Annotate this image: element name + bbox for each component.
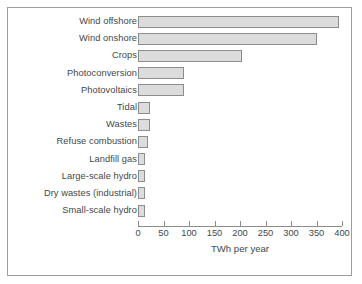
x-tick-label: 0 — [135, 228, 140, 238]
category-label: Tidal — [117, 99, 137, 116]
bar — [138, 153, 145, 165]
bar-track — [138, 116, 353, 133]
category-label: Wind offshore — [79, 13, 137, 30]
bar-row: Photoconversion — [8, 65, 353, 82]
x-tick-label: 300 — [283, 228, 299, 238]
x-tick — [266, 221, 267, 226]
bar-track — [138, 99, 353, 116]
x-axis-line — [138, 226, 342, 227]
x-tick-label: 150 — [207, 228, 223, 238]
x-tick — [189, 221, 190, 226]
bar-row: Small-scale hydro — [8, 202, 353, 219]
bar-track — [138, 133, 353, 150]
category-label: Crops — [112, 47, 137, 64]
category-label: Large-scale hydro — [62, 168, 137, 185]
bar-track — [138, 13, 353, 30]
category-label: Small-scale hydro — [62, 202, 137, 219]
x-tick — [164, 221, 165, 226]
bar — [138, 33, 317, 45]
bar — [138, 205, 145, 217]
bar-track — [138, 202, 353, 219]
x-tick-label: 350 — [309, 228, 325, 238]
bar — [138, 50, 242, 62]
x-tick — [317, 221, 318, 226]
bar — [138, 187, 145, 199]
bar-row: Photovoltaics — [8, 82, 353, 99]
category-label: Wind onshore — [79, 30, 137, 47]
x-tick — [138, 221, 139, 226]
bar-row: Dry wastes (industrial) — [8, 185, 353, 202]
bar-row: Wind offshore — [8, 13, 353, 30]
bar-row: Large-scale hydro — [8, 168, 353, 185]
bar-track — [138, 65, 353, 82]
chart-figure: Wind offshoreWind onshoreCropsPhotoconve… — [7, 7, 352, 276]
x-tick — [342, 221, 343, 226]
bar-row: Crops — [8, 47, 353, 64]
bar-row: Wastes — [8, 116, 353, 133]
category-label: Wastes — [106, 116, 137, 133]
x-tick-label: 200 — [232, 228, 248, 238]
x-tick-label: 100 — [181, 228, 197, 238]
bar — [138, 102, 150, 114]
category-label: Photovoltaics — [81, 82, 137, 99]
bar-row: Wind onshore — [8, 30, 353, 47]
bar-track — [138, 30, 353, 47]
bar-track — [138, 82, 353, 99]
plot-area: Wind offshoreWind onshoreCropsPhotoconve… — [8, 8, 353, 277]
bar-track — [138, 168, 353, 185]
bar — [138, 67, 184, 79]
bar-rows: Wind offshoreWind onshoreCropsPhotoconve… — [8, 13, 353, 219]
bar-track — [138, 151, 353, 168]
bar — [138, 16, 339, 28]
bar-row: Landfill gas — [8, 151, 353, 168]
bar-row: Refuse combustion — [8, 133, 353, 150]
bar — [138, 136, 148, 148]
x-tick-label: 250 — [258, 228, 274, 238]
bar-row: Tidal — [8, 99, 353, 116]
x-tick — [215, 221, 216, 226]
bar — [138, 84, 184, 96]
x-axis-label: TWh per year — [138, 243, 342, 254]
x-tick — [291, 221, 292, 226]
bar — [138, 119, 150, 131]
bar — [138, 170, 145, 182]
x-tick-label: 400 — [334, 228, 350, 238]
category-label: Photoconversion — [67, 65, 137, 82]
category-label: Refuse combustion — [57, 133, 137, 150]
bar-track — [138, 47, 353, 64]
x-tick — [240, 221, 241, 226]
category-label: Landfill gas — [89, 151, 137, 168]
x-tick-label: 50 — [158, 228, 168, 238]
category-label: Dry wastes (industrial) — [44, 185, 137, 202]
bar-track — [138, 185, 353, 202]
